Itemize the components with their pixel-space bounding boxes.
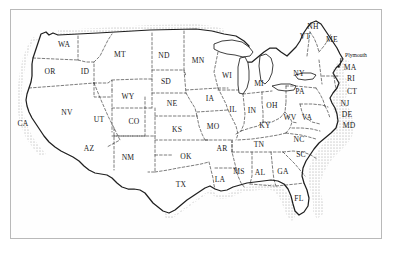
state-label-nj: NJ xyxy=(341,100,350,108)
state-label-vt: VT xyxy=(300,33,311,41)
state-label-ct: CT xyxy=(347,88,357,96)
state-label-ne: NE xyxy=(167,100,178,108)
state-label-wy: WY xyxy=(121,93,134,101)
state-label-id: ID xyxy=(81,68,89,76)
state-label-mn: MN xyxy=(192,57,205,65)
state-label-ma: MA xyxy=(344,64,357,72)
state-label-tx: TX xyxy=(176,181,187,189)
state-label-pa: PA xyxy=(295,88,304,96)
state-label-ny: NY xyxy=(293,70,304,78)
state-label-ut: UT xyxy=(94,116,105,124)
state-label-az: AZ xyxy=(84,145,95,153)
state-label-mt: MT xyxy=(114,51,126,59)
state-label-nc: NC xyxy=(294,136,305,144)
us-state-map-figure: WAORIDMTNDMNSDWIMINVUTWYNEIAILINOHPANYCA… xyxy=(0,0,395,255)
state-label-wi: WI xyxy=(222,72,232,80)
state-label-sd: SD xyxy=(161,78,171,86)
state-label-al: AL xyxy=(255,169,266,177)
state-label-fl: FL xyxy=(294,195,303,203)
state-label-nh: NH xyxy=(307,23,318,31)
state-label-ar: AR xyxy=(217,145,228,153)
state-label-nv: NV xyxy=(61,109,72,117)
state-label-il: IL xyxy=(229,106,237,114)
state-label-la: LA xyxy=(215,176,226,184)
state-label-de: DE xyxy=(342,111,353,119)
state-label-ky: KY xyxy=(259,122,270,130)
state-label-in: IN xyxy=(248,107,256,115)
state-label-mi: MI xyxy=(254,80,264,88)
state-label-wa: WA xyxy=(58,41,70,49)
state-label-oh: OH xyxy=(266,102,277,110)
state-label-mo: MO xyxy=(207,123,220,131)
state-label-ia: IA xyxy=(206,95,214,103)
state-label-va: VA xyxy=(302,114,312,122)
state-label-ca: CA xyxy=(18,120,29,128)
state-label-ga: GA xyxy=(277,168,288,176)
state-label-nd: ND xyxy=(158,52,169,60)
state-label-sc: SC xyxy=(296,151,306,159)
state-label-wv: WV xyxy=(283,114,296,122)
state-label-ms: MS xyxy=(233,168,244,176)
state-label-or: OR xyxy=(45,68,56,76)
state-label-nm: NM xyxy=(122,154,135,162)
state-label-ks: KS xyxy=(172,126,182,134)
state-label-co: CO xyxy=(129,118,140,126)
city-label-plymouth: Plymouth xyxy=(345,53,367,59)
state-label-me: ME xyxy=(326,36,338,44)
state-label-ok: OK xyxy=(180,153,191,161)
state-label-md: MD xyxy=(343,122,356,130)
state-label-ri: RI xyxy=(347,75,355,83)
state-label-tn: TN xyxy=(254,141,265,149)
